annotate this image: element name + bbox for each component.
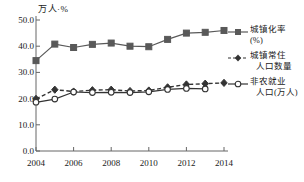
chart-legend: 城镇化率(%)城镇常住人口数量非农就业人口(万人) xyxy=(228,24,304,102)
data-point-circle xyxy=(90,90,96,96)
data-point-circle xyxy=(52,96,58,102)
series-0 xyxy=(33,27,227,63)
legend-label: 城镇常住 xyxy=(250,50,304,61)
legend-label-line2: 人口(万人) xyxy=(250,87,304,98)
data-point-square xyxy=(33,58,39,64)
data-point-square xyxy=(52,41,58,47)
legend-label-line2: 人口数量 xyxy=(250,61,304,72)
legend-label-line2: (%) xyxy=(250,35,304,46)
legend-item: 城镇化率(%) xyxy=(228,24,304,45)
data-point-circle xyxy=(165,87,171,93)
data-point-square xyxy=(71,45,77,51)
series-2 xyxy=(33,86,208,105)
data-point-circle xyxy=(184,86,190,92)
data-series xyxy=(33,27,227,105)
data-point-diamond xyxy=(52,86,58,93)
data-point-circle xyxy=(108,90,114,96)
data-point-circle xyxy=(33,99,39,105)
data-point-square xyxy=(108,40,114,46)
legend-marker-circle-open-icon xyxy=(228,80,248,88)
data-point-square xyxy=(127,43,133,49)
data-point-square xyxy=(89,41,95,47)
data-point-square xyxy=(221,27,227,33)
data-point-circle xyxy=(71,89,77,95)
line-chart: 万人·% 0.010.020.030.040.050.0 20042006200… xyxy=(0,0,304,182)
data-point-diamond xyxy=(221,79,227,86)
data-point-circle xyxy=(127,90,133,96)
data-point-circle xyxy=(202,86,208,92)
legend-marker-diamond-icon xyxy=(228,54,248,62)
legend-marker-square-icon xyxy=(228,28,248,36)
data-point-square xyxy=(165,36,171,42)
legend-item: 非农就业人口(万人) xyxy=(228,76,304,97)
data-point-square xyxy=(183,30,189,36)
data-point-square xyxy=(146,44,152,50)
data-point-circle xyxy=(146,89,152,95)
legend-label: 城镇化率 xyxy=(250,24,304,35)
legend-label: 非农就业 xyxy=(250,76,304,87)
data-point-square xyxy=(202,29,208,35)
legend-item: 城镇常住人口数量 xyxy=(228,50,304,71)
